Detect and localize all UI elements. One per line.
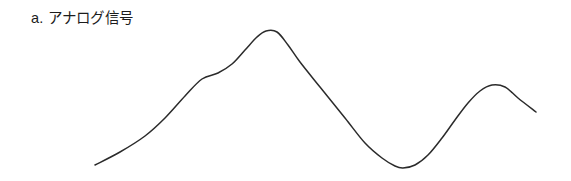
analog-signal-figure: a. アナログ信号 <box>0 0 571 181</box>
analog-signal-curve <box>95 30 536 168</box>
analog-waveform-chart <box>0 0 571 181</box>
